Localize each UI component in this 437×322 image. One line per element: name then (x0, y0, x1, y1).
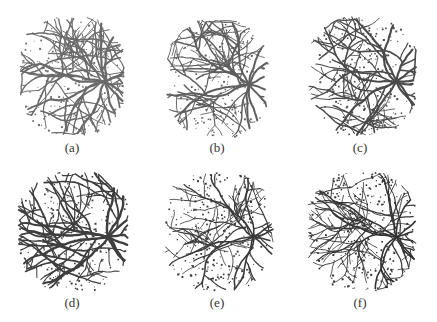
panel-caption: (d) (2, 295, 142, 311)
panel-caption: (b) (147, 140, 287, 156)
retinal-vessel-segmentation-image (147, 0, 287, 161)
retinal-vessel-segmentation-image (290, 0, 430, 161)
figure-panel: (c) (290, 0, 430, 161)
figure-panel: (e) (147, 162, 287, 322)
panel-caption: (f) (290, 295, 430, 311)
panel-caption: (e) (147, 295, 287, 311)
figure-panel: (b) (147, 0, 287, 161)
retinal-vessel-segmentation-image (2, 0, 142, 161)
figure-panel: (d) (2, 162, 142, 322)
figure-panel: (f) (290, 162, 430, 322)
figure-panel: (a) (2, 0, 142, 161)
panel-caption: (a) (2, 140, 142, 156)
panel-caption: (c) (290, 140, 430, 156)
